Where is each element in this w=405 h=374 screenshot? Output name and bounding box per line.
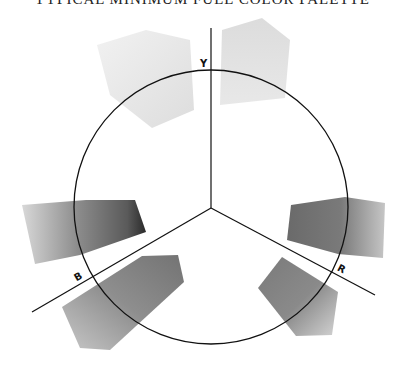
axis-label-y: Y: [199, 58, 208, 69]
swatch-red-upper: [287, 197, 385, 258]
swatch-yellow-right: [220, 18, 290, 105]
axis-label-b: B: [72, 270, 84, 283]
swatch-blue-upper: [22, 200, 146, 264]
axis-label-r: R: [336, 262, 348, 275]
color-wheel-diagram: Y R B: [0, 0, 405, 374]
